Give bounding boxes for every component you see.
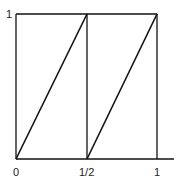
ramp-segment-2 [87,14,157,159]
x-label-zero: 0 [13,166,19,178]
x-label-half: 1/2 [79,166,94,178]
sawtooth-diagram: 1 0 1/2 1 [0,0,183,184]
x-label-one: 1 [154,166,160,178]
ramp-segment-1 [16,14,87,159]
y-label-one: 1 [6,8,12,20]
